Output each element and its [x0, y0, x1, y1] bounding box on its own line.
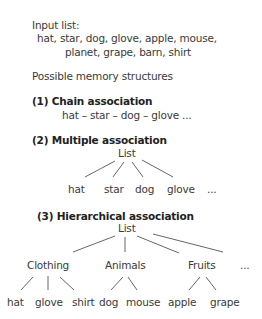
- leaf-node: mouse: [126, 296, 160, 308]
- category-node-ellipsis: ...: [240, 259, 249, 271]
- chain-association-title: (1) Chain association: [32, 95, 152, 107]
- multiple-child-ellipsis: ...: [207, 183, 216, 195]
- input-list-label: Input list:: [32, 19, 79, 31]
- hierarchical-root-edges: [73, 234, 223, 253]
- multiple-association-edges: [85, 160, 173, 177]
- category-node-animals: Animals: [105, 259, 145, 271]
- multiple-child-node: glove: [167, 183, 195, 195]
- input-list-line-2: planet, grape, barn, shirt: [65, 46, 191, 58]
- hierarchical-root-node: List: [118, 222, 136, 234]
- multiple-root-node: List: [118, 147, 136, 159]
- chain-sequence: hat – star – dog – glove ...: [62, 109, 192, 121]
- leaf-node: hat: [7, 296, 24, 308]
- leaf-node: grape: [210, 296, 240, 308]
- category-node-fruits: Fruits: [188, 259, 216, 271]
- multiple-child-node: dog: [135, 183, 154, 195]
- structures-heading: Possible memory structures: [32, 70, 173, 82]
- hierarchical-association-title: (3) Hierarchical association: [37, 210, 194, 222]
- leaf-node: shirt: [72, 296, 94, 308]
- input-list-line-1: hat, star, dog, glove, apple, mouse,: [37, 32, 217, 44]
- leaf-node: glove: [35, 296, 63, 308]
- leaf-node: dog: [99, 296, 118, 308]
- multiple-child-node: hat: [68, 183, 85, 195]
- category-node-clothing: Clothing: [27, 259, 69, 271]
- leaf-node: apple: [168, 296, 196, 308]
- multiple-child-node: star: [104, 183, 124, 195]
- multiple-association-title: (2) Multiple association: [32, 134, 167, 146]
- hierarchical-category-edges: [21, 276, 216, 290]
